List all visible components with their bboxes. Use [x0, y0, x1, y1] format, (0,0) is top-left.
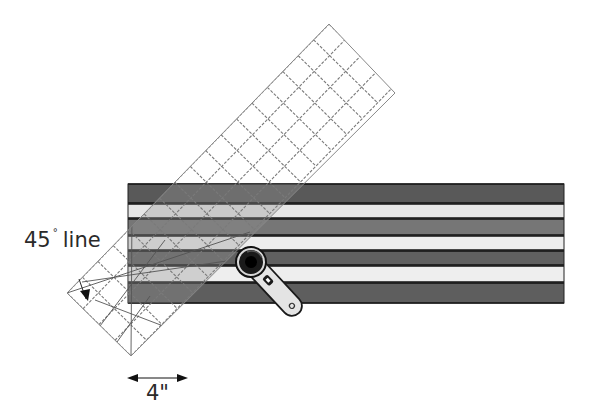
diagram-canvas: 45°line 4"	[0, 0, 591, 418]
arrow-left-icon	[127, 374, 138, 382]
angle-line-label: 45°line	[24, 228, 101, 252]
degree-symbol: °	[53, 227, 58, 238]
bias-strip-illustration	[0, 0, 591, 418]
angle-value: 45	[24, 228, 51, 252]
angle-suffix: line	[63, 228, 101, 252]
strip-width-label: 4"	[146, 381, 169, 405]
leader-arrowhead-icon	[80, 289, 90, 301]
arrow-right-icon	[177, 374, 188, 382]
